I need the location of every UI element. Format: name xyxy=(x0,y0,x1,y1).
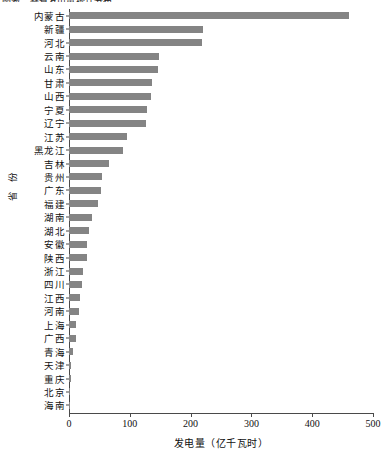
category-label: 陕西 xyxy=(44,251,65,265)
x-tick-label: 100 xyxy=(122,418,137,429)
category-label: 北京 xyxy=(44,385,65,399)
y-tick-mark xyxy=(66,136,69,137)
x-tick-mark xyxy=(130,413,131,417)
category-label: 甘肃 xyxy=(44,76,65,90)
x-tick-label: 300 xyxy=(244,418,259,429)
bar-row: 河南 xyxy=(69,305,373,318)
bar xyxy=(69,53,159,60)
category-label: 青海 xyxy=(44,345,65,359)
bar xyxy=(69,294,80,301)
bar-row: 安徽 xyxy=(69,237,373,250)
category-label: 新疆 xyxy=(44,22,65,36)
x-tick-label: 200 xyxy=(183,418,198,429)
bar-row: 江苏 xyxy=(69,130,373,143)
bar-row: 广西 xyxy=(69,332,373,345)
bar xyxy=(69,187,101,194)
y-tick-mark xyxy=(66,109,69,110)
category-label: 吉林 xyxy=(44,157,65,171)
bar xyxy=(69,133,127,140)
y-tick-mark xyxy=(66,163,69,164)
category-label: 山东 xyxy=(44,62,65,76)
category-label: 江西 xyxy=(44,291,65,305)
y-axis-title: 省 份 xyxy=(5,165,19,205)
category-label: 海南 xyxy=(44,398,65,412)
x-tick-mark xyxy=(373,413,374,417)
bar xyxy=(69,254,87,261)
y-tick-mark xyxy=(66,230,69,231)
bar xyxy=(69,106,147,113)
bar-row: 内蒙古 xyxy=(69,9,373,22)
x-tick-label: 400 xyxy=(305,418,320,429)
bar-chart: 图表：各省发电量统计分布 省 份 内蒙古新疆河北云南山东甘肃山西宁夏辽宁江苏黑龙… xyxy=(0,0,383,453)
plot-area: 内蒙古新疆河北云南山东甘肃山西宁夏辽宁江苏黑龙江吉林贵州广东福建湖南湖北安徽陕西… xyxy=(69,9,373,413)
category-label: 云南 xyxy=(44,49,65,63)
category-label: 辽宁 xyxy=(44,116,65,130)
bar-row: 四川 xyxy=(69,278,373,291)
category-label: 河南 xyxy=(44,304,65,318)
y-tick-mark xyxy=(66,391,69,392)
x-axis-title: 发电量（亿千瓦时） xyxy=(69,435,373,450)
y-tick-mark xyxy=(66,150,69,151)
y-tick-mark xyxy=(66,42,69,43)
bar-row: 湖南 xyxy=(69,211,373,224)
bar-row: 陕西 xyxy=(69,251,373,264)
bar-row: 黑龙江 xyxy=(69,143,373,156)
y-tick-mark xyxy=(66,217,69,218)
bar xyxy=(69,173,102,180)
y-tick-mark xyxy=(66,324,69,325)
y-tick-mark xyxy=(66,311,69,312)
bar-row: 云南 xyxy=(69,49,373,62)
category-label: 福建 xyxy=(44,197,65,211)
bar-row: 河北 xyxy=(69,36,373,49)
y-tick-mark xyxy=(66,405,69,406)
bar-row: 山东 xyxy=(69,63,373,76)
bar-row: 天津 xyxy=(69,358,373,371)
category-label: 广东 xyxy=(44,183,65,197)
bar xyxy=(69,147,123,154)
bar xyxy=(69,308,79,315)
bar-row: 贵州 xyxy=(69,170,373,183)
bar xyxy=(69,66,158,73)
y-tick-mark xyxy=(66,15,69,16)
y-tick-mark xyxy=(66,257,69,258)
bar xyxy=(69,402,70,409)
bar-row: 浙江 xyxy=(69,264,373,277)
bar xyxy=(69,120,146,127)
y-tick-mark xyxy=(66,82,69,83)
category-label: 上海 xyxy=(44,318,65,332)
bar-rows: 内蒙古新疆河北云南山东甘肃山西宁夏辽宁江苏黑龙江吉林贵州广东福建湖南湖北安徽陕西… xyxy=(69,9,373,413)
bar xyxy=(69,227,89,234)
bar-row: 北京 xyxy=(69,385,373,398)
bar xyxy=(69,12,349,19)
bar xyxy=(69,160,109,167)
bar-row: 青海 xyxy=(69,345,373,358)
y-tick-mark xyxy=(66,284,69,285)
bar xyxy=(69,335,76,342)
bar-row: 甘肃 xyxy=(69,76,373,89)
x-tick-mark xyxy=(312,413,313,417)
category-label: 广西 xyxy=(44,331,65,345)
category-label: 安徽 xyxy=(44,237,65,251)
category-label: 宁夏 xyxy=(44,103,65,117)
category-label: 内蒙古 xyxy=(34,9,66,23)
y-tick-mark xyxy=(66,271,69,272)
bar-row: 新疆 xyxy=(69,22,373,35)
bar xyxy=(69,281,82,288)
bar xyxy=(69,362,71,369)
y-tick-mark xyxy=(66,378,69,379)
y-tick-mark xyxy=(66,244,69,245)
bar-row: 吉林 xyxy=(69,157,373,170)
bar xyxy=(69,388,70,395)
bar-row: 上海 xyxy=(69,318,373,331)
bar-row: 辽宁 xyxy=(69,117,373,130)
category-label: 黑龙江 xyxy=(34,143,66,157)
x-tick-label: 0 xyxy=(67,418,72,429)
y-tick-mark xyxy=(66,338,69,339)
bar xyxy=(69,93,151,100)
bar-row: 福建 xyxy=(69,197,373,210)
category-label: 河北 xyxy=(44,36,65,50)
bar xyxy=(69,241,87,248)
y-tick-mark xyxy=(66,365,69,366)
category-label: 重庆 xyxy=(44,372,65,386)
bar xyxy=(69,268,83,275)
